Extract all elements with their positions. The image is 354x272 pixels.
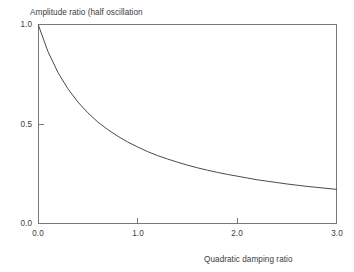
chart-figure: Amplitude ratio (half oscillation 1.0 0.…	[0, 0, 354, 272]
data-series-amplitude-ratio	[38, 24, 337, 189]
ytick-mark-0.0	[39, 223, 44, 224]
ytick-label-0.0: 0.0	[6, 219, 32, 228]
xtick-mark-1.0	[137, 218, 138, 223]
xtick-mark-2.0	[237, 218, 238, 223]
xtick-mark-3.0	[336, 218, 337, 223]
xtick-label-2.0: 2.0	[222, 229, 252, 238]
ytick-mark-0.5	[39, 124, 44, 125]
xtick-mark-0.0	[38, 218, 39, 223]
ytick-label-0.5: 0.5	[6, 120, 32, 129]
plot-area	[38, 24, 337, 224]
ytick-mark-1.0	[39, 24, 44, 25]
xtick-label-0.0: 0.0	[23, 229, 53, 238]
xtick-label-3.0: 3.0	[322, 229, 352, 238]
chart-title: Amplitude ratio (half oscillation	[30, 7, 143, 18]
ytick-label-1.0: 1.0	[6, 20, 32, 29]
xtick-label-1.0: 1.0	[123, 229, 153, 238]
x-axis-label: Quadratic damping ratio	[204, 254, 293, 265]
